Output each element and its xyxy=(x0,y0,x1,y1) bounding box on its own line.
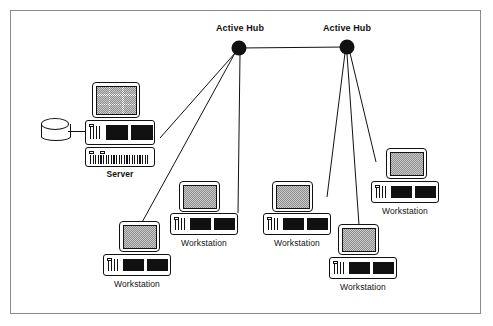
link-hub-left-hub-right xyxy=(239,47,347,48)
ws-bottom-right-bay-2 xyxy=(373,262,394,274)
server-expansion-unit xyxy=(85,147,155,167)
disk-storage xyxy=(41,118,69,142)
server-system-unit xyxy=(85,120,155,145)
ws-center-right-bay-1 xyxy=(283,218,304,230)
ws-bottom-left-power-knob xyxy=(107,258,112,262)
ws-center-right-bay-2 xyxy=(307,218,328,230)
server-screen xyxy=(96,86,137,115)
server-drive-bay-2 xyxy=(131,125,153,139)
link-hub-left-ws-center-left xyxy=(238,55,240,213)
server-label: Server xyxy=(92,169,148,179)
ws-bottom-left-bay-1 xyxy=(123,259,144,271)
ws-center-left-label: Workstation xyxy=(174,238,234,248)
link-hub-right-ws-center-right xyxy=(327,53,345,197)
ws-bottom-left-screen xyxy=(123,225,157,249)
ws-bottom-right-monitor xyxy=(338,224,379,255)
ws-bottom-left-monitor xyxy=(119,221,160,252)
ws-center-left-bay-1 xyxy=(190,218,211,230)
server-drive-bay-1 xyxy=(106,125,128,139)
ws-center-left-screen xyxy=(183,185,217,209)
server-vents xyxy=(90,126,102,139)
ws-bottom-left-bay-2 xyxy=(147,259,168,271)
disk-top xyxy=(41,118,69,130)
hub-right-label: Active Hub xyxy=(321,23,373,33)
ws-center-right-monitor xyxy=(272,181,313,212)
ws-bottom-right-label: Workstation xyxy=(333,282,393,292)
ws-center-left-bay-2 xyxy=(214,218,235,230)
ws-center-right-label: Workstation xyxy=(267,238,327,248)
ws-right-bay-1 xyxy=(391,186,412,198)
disk-cable xyxy=(68,131,86,132)
hub-left-dot[interactable] xyxy=(232,41,247,56)
ws-center-left-power-knob xyxy=(174,217,179,221)
hub-right-dot[interactable] xyxy=(340,40,355,55)
hub-left-label: Active Hub xyxy=(214,23,266,33)
ws-bottom-left-system-unit xyxy=(103,254,171,276)
ws-center-right-system-unit xyxy=(263,213,331,235)
ws-right-screen xyxy=(390,152,424,176)
server-expansion-led-2 xyxy=(100,151,105,155)
ws-center-right-power-knob xyxy=(267,217,272,221)
ws-right-bay-2 xyxy=(415,186,436,198)
ws-right-power-knob xyxy=(375,185,380,189)
ws-right-system-unit xyxy=(371,181,439,203)
ws-bottom-right-bay-1 xyxy=(349,262,370,274)
link-hub-right-ws-bottom-right xyxy=(347,54,359,225)
ws-center-left-monitor xyxy=(179,181,220,212)
server-power-knob xyxy=(89,124,94,128)
server-monitor xyxy=(92,82,140,118)
ws-center-right-screen xyxy=(276,185,310,209)
ws-center-left-system-unit xyxy=(170,213,238,235)
server-expansion-led-1 xyxy=(89,151,94,155)
ws-bottom-right-power-knob xyxy=(333,261,338,265)
ws-bottom-right-system-unit xyxy=(329,257,397,279)
link-hub-left-server xyxy=(160,52,236,138)
server-expansion-vents xyxy=(90,155,150,165)
ws-bottom-right-screen xyxy=(342,228,376,252)
ws-bottom-left-label: Workstation xyxy=(107,279,167,289)
ws-right-monitor xyxy=(386,148,427,179)
network-diagram: Active Hub Active Hub Server xyxy=(0,0,493,326)
ws-right-label: Workstation xyxy=(375,206,435,216)
